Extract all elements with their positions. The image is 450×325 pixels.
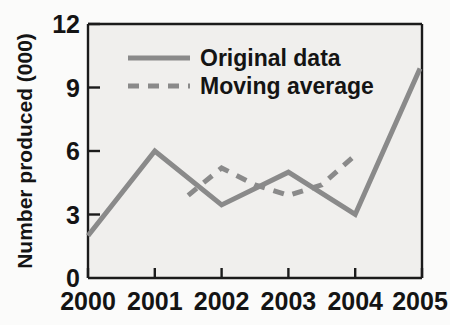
line-chart: 12 9 6 3 0 2000 2001 2002 2003 2004 2005… (0, 0, 450, 325)
x-tick-label-2002: 2002 (194, 287, 250, 315)
x-tick-label-2000: 2000 (60, 287, 116, 315)
x-tick-labels: 2000 2001 2002 2003 2004 2005 (60, 287, 448, 315)
y-tick-labels: 12 9 6 3 0 (52, 10, 80, 292)
legend-label-moving-average: Moving average (200, 73, 374, 99)
y-axis-title: Number produced (000) (13, 33, 36, 269)
x-tick-label-2003: 2003 (261, 287, 317, 315)
x-tick-label-2005: 2005 (392, 287, 448, 315)
x-tick-label-2001: 2001 (127, 287, 183, 315)
legend-label-original-data: Original data (200, 45, 341, 71)
x-tick-label-2004: 2004 (327, 287, 383, 315)
y-tick-label-3: 3 (66, 201, 80, 229)
y-tick-label-12: 12 (52, 10, 80, 38)
y-tick-label-9: 9 (66, 74, 80, 102)
y-tick-label-6: 6 (66, 137, 80, 165)
chart-container: 12 9 6 3 0 2000 2001 2002 2003 2004 2005… (0, 0, 450, 325)
